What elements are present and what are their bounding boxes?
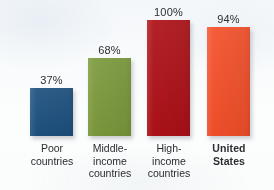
bar-value-label-high-income-countries: 100%	[154, 6, 183, 18]
bar-value-label-united-states: 94%	[217, 13, 240, 25]
bar-united-states	[207, 27, 250, 136]
bar-value-label-poor-countries: 37%	[40, 74, 63, 86]
bar-high-income-countries	[147, 20, 190, 136]
bar-poor-countries	[30, 88, 73, 136]
bar-group-high-income-countries: 100%	[147, 20, 190, 136]
bar-value-label-middle-income-countries: 68%	[98, 44, 121, 56]
category-label-line: States	[194, 155, 264, 168]
bar-middle-income-countries	[88, 58, 131, 136]
bar-group-middle-income-countries: 68%	[88, 58, 131, 136]
category-label-line: countries	[134, 167, 204, 180]
plot-area: 37% 68% 100% 94% Poor countries Middle- …	[0, 0, 274, 190]
bar-group-united-states: 94%	[207, 27, 250, 136]
category-label-line: United	[194, 142, 264, 155]
bar-chart-figure: 37% 68% 100% 94% Poor countries Middle- …	[0, 0, 274, 190]
category-label-united-states: United States	[194, 142, 264, 167]
bar-group-poor-countries: 37%	[30, 88, 73, 136]
